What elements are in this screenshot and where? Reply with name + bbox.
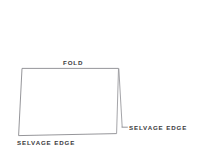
back-panel-edge-line [119,68,122,127]
selvage-edge-label-bottom: SELVAGE EDGE [17,140,75,146]
front-panel-right-edge-line [117,68,119,133]
left-edge-line [19,68,22,135]
fabric-fold-diagram: FOLD SELVAGE EDGE SELVAGE EDGE [0,0,206,162]
selvage-edge-label-right: SELVAGE EDGE [129,125,187,131]
fabric-diagram-svg [0,0,206,162]
bottom-selvage-edge-line [19,134,117,136]
fold-label: FOLD [63,60,83,66]
